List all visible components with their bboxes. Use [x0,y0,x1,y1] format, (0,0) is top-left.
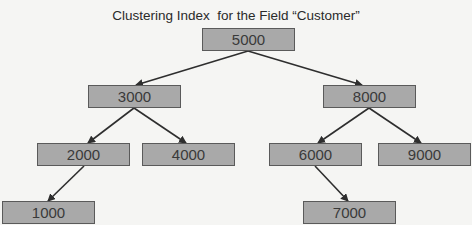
edge-2000-1000 [48,166,84,201]
node-left-left-left: 1000 [2,201,95,224]
edge-8000-9000 [369,108,421,143]
edge-3000-2000 [88,108,134,143]
edge-6000-7000 [315,166,348,201]
node-right: 8000 [323,85,416,108]
node-right-left-right: 7000 [303,201,396,224]
edge-3000-4000 [134,108,186,143]
edge-8000-6000 [318,108,369,143]
node-left-right: 4000 [142,143,235,166]
edge-5000-3000 [136,51,248,85]
node-right-left: 6000 [269,143,362,166]
node-right-right: 9000 [378,143,471,166]
node-left: 3000 [88,85,181,108]
node-left-left: 2000 [37,143,130,166]
node-root: 5000 [202,28,295,51]
edge-5000-8000 [248,51,362,85]
